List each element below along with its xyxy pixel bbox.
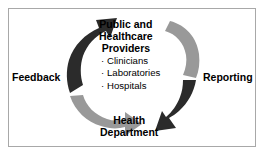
diagram-text-layer: Public and Healthcare Providers ·Clinici… (0, 0, 265, 156)
node-health-department-line2: Department (100, 127, 158, 139)
list-item-label: Laboratories (107, 67, 160, 78)
surveillance-cycle-diagram: Public and Healthcare Providers ·Clinici… (0, 0, 265, 156)
node-health-department-title: Health Department (100, 115, 158, 139)
node-providers-item-list: ·Clinicians ·Laboratories ·Hospitals (101, 55, 160, 92)
list-item: ·Hospitals (101, 80, 160, 92)
node-providers-line2: Healthcare (99, 31, 153, 43)
list-item-label: Clinicians (107, 55, 148, 66)
feedback-arrow-label: Feedback (12, 72, 60, 83)
node-providers-title: Public and Healthcare Providers (99, 19, 153, 54)
node-providers-line3: Providers (99, 43, 153, 55)
node-health-department-line1: Health (100, 115, 158, 127)
list-item: ·Laboratories (101, 67, 160, 79)
node-providers-line1: Public and (99, 19, 153, 31)
list-item-label: Hospitals (107, 80, 146, 91)
list-item: ·Clinicians (101, 55, 160, 67)
reporting-arrow-label: Reporting (203, 72, 253, 83)
